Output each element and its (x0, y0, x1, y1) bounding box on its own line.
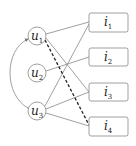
edge-u1-i1 (46, 22, 89, 34)
item-node-i3: i3 (89, 83, 128, 101)
user-node-u3: u3 (28, 102, 46, 120)
edge-u1-i4-dashed (45, 40, 89, 125)
user-node-u2: u2 (28, 64, 46, 82)
arc-u3-u1 (10, 39, 28, 108)
edge-u1-i3 (46, 38, 89, 92)
edges (45, 22, 89, 126)
item-node-i4: i4 (89, 117, 128, 136)
user-node-u1: u1 (28, 27, 46, 45)
bipartite-graph: u1 u2 u3 i1 i2 i3 i4 (0, 0, 136, 146)
item-node-i2: i2 (89, 48, 128, 66)
edge-u3-i4 (46, 113, 89, 126)
edge-u3-i3 (46, 92, 89, 109)
item-node-i1: i1 (89, 13, 128, 32)
edge-u3-i1 (45, 24, 89, 106)
